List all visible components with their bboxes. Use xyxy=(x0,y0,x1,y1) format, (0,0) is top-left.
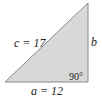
hypotenuse-label: c = 17 xyxy=(14,36,46,50)
right-angle-label: 90° xyxy=(69,71,83,82)
right-triangle-diagram: c = 17 b 90° a = 12 xyxy=(0,0,102,98)
side-a-label: a = 12 xyxy=(31,84,63,98)
side-b-label: b xyxy=(91,35,97,49)
